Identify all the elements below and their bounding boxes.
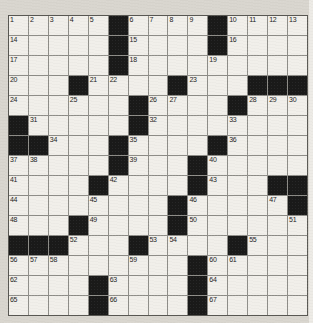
grid-cell[interactable] — [268, 296, 287, 315]
grid-cell[interactable] — [208, 116, 227, 135]
grid-cell[interactable] — [69, 296, 88, 315]
grid-cell[interactable] — [149, 76, 168, 95]
grid-cell[interactable] — [168, 136, 187, 155]
grid-cell[interactable]: 22 — [109, 76, 128, 95]
grid-cell[interactable] — [29, 56, 48, 75]
grid-cell[interactable]: 13 — [288, 16, 307, 35]
grid-cell[interactable] — [49, 196, 68, 215]
grid-cell[interactable]: 32 — [149, 116, 168, 135]
grid-cell[interactable] — [288, 136, 307, 155]
grid-cell[interactable] — [268, 136, 287, 155]
grid-cell[interactable]: 41 — [9, 176, 28, 195]
grid-cell[interactable] — [268, 156, 287, 175]
grid-cell[interactable] — [288, 156, 307, 175]
grid-cell[interactable] — [168, 56, 187, 75]
grid-cell[interactable] — [49, 76, 68, 95]
grid-cell[interactable] — [188, 136, 207, 155]
grid-cell[interactable] — [129, 276, 148, 295]
grid-cell[interactable] — [288, 116, 307, 135]
grid-cell[interactable]: 33 — [228, 116, 247, 135]
grid-cell[interactable]: 59 — [129, 256, 148, 275]
grid-cell[interactable] — [29, 96, 48, 115]
grid-cell[interactable]: 44 — [9, 196, 28, 215]
grid-cell[interactable] — [129, 296, 148, 315]
grid-cell[interactable]: 45 — [89, 196, 108, 215]
grid-cell[interactable]: 31 — [29, 116, 48, 135]
grid-cell[interactable] — [228, 276, 247, 295]
grid-cell[interactable] — [49, 216, 68, 235]
grid-cell[interactable] — [168, 156, 187, 175]
grid-cell[interactable] — [149, 156, 168, 175]
grid-cell[interactable] — [188, 96, 207, 115]
grid-cell[interactable]: 34 — [49, 136, 68, 155]
grid-cell[interactable]: 24 — [9, 96, 28, 115]
grid-cell[interactable] — [288, 56, 307, 75]
grid-cell[interactable]: 30 — [288, 96, 307, 115]
grid-cell[interactable] — [69, 116, 88, 135]
grid-cell[interactable] — [129, 196, 148, 215]
grid-cell[interactable] — [168, 36, 187, 55]
grid-cell[interactable] — [149, 176, 168, 195]
grid-cell[interactable] — [248, 176, 267, 195]
grid-cell[interactable]: 39 — [129, 156, 148, 175]
grid-cell[interactable]: 21 — [89, 76, 108, 95]
grid-cell[interactable] — [248, 156, 267, 175]
grid-cell[interactable] — [69, 136, 88, 155]
grid-cell[interactable]: 3 — [49, 16, 68, 35]
grid-cell[interactable]: 63 — [109, 276, 128, 295]
grid-cell[interactable] — [208, 96, 227, 115]
grid-cell[interactable] — [109, 196, 128, 215]
grid-cell[interactable] — [228, 296, 247, 315]
grid-cell[interactable] — [89, 116, 108, 135]
grid-cell[interactable] — [149, 56, 168, 75]
grid-cell[interactable]: 49 — [89, 216, 108, 235]
grid-cell[interactable] — [49, 96, 68, 115]
grid-cell[interactable]: 47 — [268, 196, 287, 215]
grid-cell[interactable]: 35 — [129, 136, 148, 155]
grid-cell[interactable] — [149, 296, 168, 315]
grid-cell[interactable] — [228, 76, 247, 95]
grid-cell[interactable]: 11 — [248, 16, 267, 35]
grid-cell[interactable]: 19 — [208, 56, 227, 75]
grid-cell[interactable] — [288, 296, 307, 315]
grid-cell[interactable]: 12 — [268, 16, 287, 35]
grid-cell[interactable] — [228, 156, 247, 175]
grid-cell[interactable] — [248, 256, 267, 275]
grid-cell[interactable] — [49, 56, 68, 75]
grid-cell[interactable] — [228, 176, 247, 195]
grid-cell[interactable]: 65 — [9, 296, 28, 315]
grid-cell[interactable]: 61 — [228, 256, 247, 275]
grid-cell[interactable] — [168, 176, 187, 195]
grid-cell[interactable] — [109, 116, 128, 135]
grid-cell[interactable]: 55 — [248, 236, 267, 255]
grid-cell[interactable]: 40 — [208, 156, 227, 175]
grid-cell[interactable]: 60 — [208, 256, 227, 275]
grid-cell[interactable] — [49, 156, 68, 175]
grid-cell[interactable]: 23 — [188, 76, 207, 95]
grid-cell[interactable] — [69, 36, 88, 55]
grid-cell[interactable]: 7 — [149, 16, 168, 35]
grid-cell[interactable] — [268, 56, 287, 75]
grid-cell[interactable] — [248, 216, 267, 235]
grid-cell[interactable] — [29, 196, 48, 215]
grid-cell[interactable] — [268, 216, 287, 235]
grid-cell[interactable]: 29 — [268, 96, 287, 115]
grid-cell[interactable] — [288, 276, 307, 295]
grid-cell[interactable] — [168, 296, 187, 315]
grid-cell[interactable]: 14 — [9, 36, 28, 55]
grid-cell[interactable]: 58 — [49, 256, 68, 275]
grid-cell[interactable] — [29, 36, 48, 55]
grid-cell[interactable]: 27 — [168, 96, 187, 115]
grid-cell[interactable] — [208, 216, 227, 235]
grid-cell[interactable]: 62 — [9, 276, 28, 295]
grid-cell[interactable]: 46 — [188, 196, 207, 215]
grid-cell[interactable]: 20 — [9, 76, 28, 95]
grid-cell[interactable] — [109, 236, 128, 255]
grid-cell[interactable] — [248, 36, 267, 55]
grid-cell[interactable]: 17 — [9, 56, 28, 75]
grid-cell[interactable]: 18 — [129, 56, 148, 75]
grid-cell[interactable]: 54 — [168, 236, 187, 255]
grid-cell[interactable] — [109, 96, 128, 115]
grid-cell[interactable] — [49, 276, 68, 295]
grid-cell[interactable] — [149, 276, 168, 295]
